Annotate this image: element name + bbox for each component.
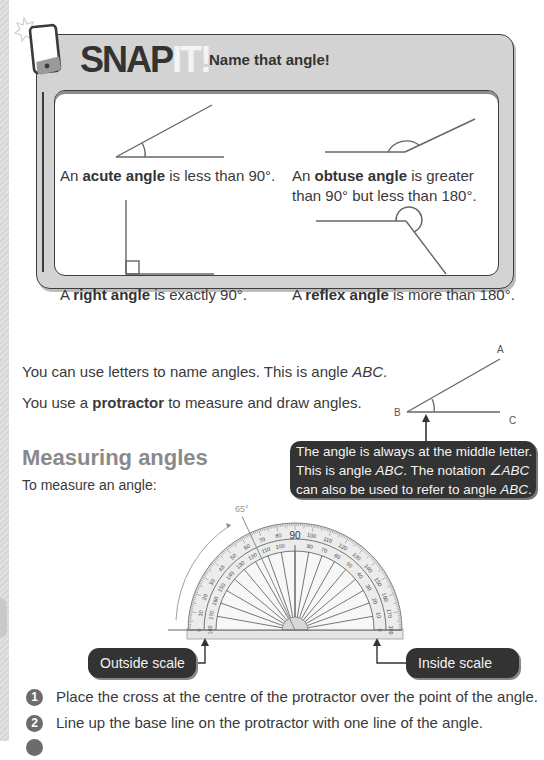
step-2: 2Line up the base line on the protractor… bbox=[26, 713, 483, 733]
svg-text:10: 10 bbox=[375, 612, 382, 619]
svg-text:80: 80 bbox=[306, 543, 313, 550]
step-text-2: Line up the base line on the protractor … bbox=[56, 714, 483, 731]
svg-text:80: 80 bbox=[275, 532, 282, 539]
step-1: 1Place the cross at the centre of the pr… bbox=[26, 687, 538, 707]
svg-text:90: 90 bbox=[289, 530, 301, 541]
outside-scale-callout: Outside scale bbox=[88, 648, 196, 678]
svg-text:10: 10 bbox=[197, 610, 204, 617]
step-number-3 bbox=[26, 739, 43, 756]
inside-scale-callout: Inside scale bbox=[406, 648, 519, 678]
step-number-1: 1 bbox=[26, 689, 43, 706]
step-number-2: 2 bbox=[26, 715, 43, 732]
step-text-1: Place the cross at the centre of the pro… bbox=[56, 688, 538, 705]
step-3-partial bbox=[26, 739, 56, 760]
svg-text:65°: 65° bbox=[235, 504, 249, 514]
